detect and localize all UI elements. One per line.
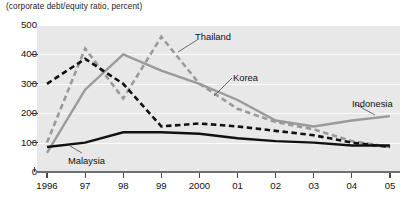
series-label-malaysia: Malaysia: [68, 155, 105, 166]
series-label-korea: Korea: [233, 72, 258, 83]
series-label-indonesia: Indonesia: [352, 98, 393, 109]
series-label-thailand: Thailand: [195, 31, 231, 42]
series-line-korea: [47, 59, 390, 147]
leader-line-malaysia: [70, 146, 82, 153]
debt-equity-ratio-chart: (corporate debt/equity ratio, percent) 0…: [0, 0, 416, 204]
